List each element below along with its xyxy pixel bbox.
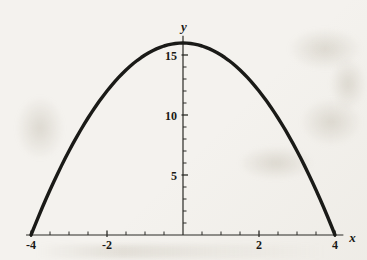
y-tick-label: 5 bbox=[171, 169, 177, 183]
x-tick-label: -2 bbox=[102, 238, 112, 252]
x-axis-label: x bbox=[348, 230, 356, 245]
y-axis-label: y bbox=[179, 19, 187, 34]
x-tick-label: 2 bbox=[256, 238, 262, 252]
x-tick-label: 4 bbox=[332, 238, 338, 252]
parabola-plot: -4-22451015xy bbox=[0, 0, 367, 260]
y-tick-label: 15 bbox=[165, 49, 177, 63]
y-tick-label: 10 bbox=[165, 109, 177, 123]
scanned-figure-page: -4-22451015xy bbox=[0, 0, 367, 260]
x-tick-label: -4 bbox=[26, 238, 36, 252]
